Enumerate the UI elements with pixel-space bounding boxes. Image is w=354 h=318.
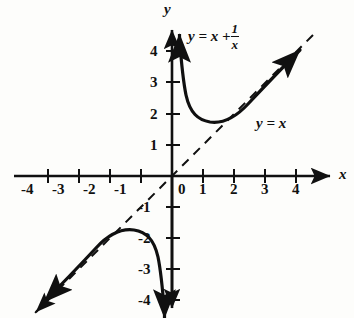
xtick-label--2: -2: [83, 182, 96, 197]
xtick-label-1: 1: [199, 182, 207, 197]
curve-equation-label: y = x +1x: [188, 22, 239, 52]
fraction-one-over-x: 1x: [231, 22, 240, 52]
x-axis-label: x: [339, 167, 347, 182]
xtick-label-3: 3: [261, 182, 269, 197]
fraction-denominator: x: [231, 38, 240, 51]
ytick-label--1: -1: [138, 200, 151, 215]
y-axis-label: y: [164, 2, 171, 17]
ytick-label--4: -4: [138, 293, 151, 308]
graph-svg: [0, 0, 354, 318]
asymptote-arrow-lower-left: [36, 288, 60, 312]
ytick-label-2: 2: [150, 107, 158, 122]
line-equation-label: y = x: [256, 116, 286, 131]
ytick-label-3: 3: [150, 75, 158, 90]
xtick-label--1: -1: [114, 182, 127, 197]
y-axis: [166, 30, 180, 308]
ytick-label--3: -3: [138, 262, 151, 277]
ytick-label-4: 4: [150, 44, 158, 59]
xtick-label-4: 4: [292, 182, 300, 197]
origin-label: 0: [178, 182, 186, 197]
xtick-label--3: -3: [52, 182, 65, 197]
xtick-label--4: -4: [21, 182, 34, 197]
figure-canvas: y x 0 -4 -3 -2 -1 1 2 3 4 4 3 2 1 -1 -2 …: [0, 0, 354, 318]
ytick-label-1: 1: [150, 138, 158, 153]
xtick-label-2: 2: [230, 182, 238, 197]
fraction-numerator: 1: [231, 22, 240, 35]
ytick-label--2: -2: [138, 231, 151, 246]
curve-equation-prefix: y = x +: [188, 28, 231, 44]
